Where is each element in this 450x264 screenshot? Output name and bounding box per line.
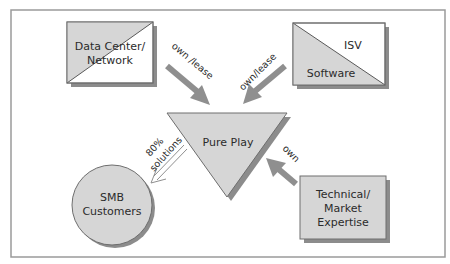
data-center-label-line2: Network [87,54,134,67]
pure-play-diagram: Data Center/ Network ISV Software Pure P… [0,0,450,264]
software-label: Software [307,67,356,80]
data-center-network-node: Data Center/ Network [67,22,157,87]
expertise-label-line1: Technical/ [315,188,371,201]
data-center-label-line1: Data Center/ [75,40,146,53]
expertise-label-line3: Expertise [317,216,369,229]
isv-software-node: ISV Software [293,23,389,89]
expertise-label-line2: Market [324,202,362,215]
smb-label-line2: Customers [82,205,141,218]
isv-label: ISV [344,39,362,52]
smb-label-line1: SMB [100,191,124,204]
technical-market-expertise-node: Technical/ Market Expertise [300,176,390,243]
pure-play-label: Pure Play [203,136,254,149]
